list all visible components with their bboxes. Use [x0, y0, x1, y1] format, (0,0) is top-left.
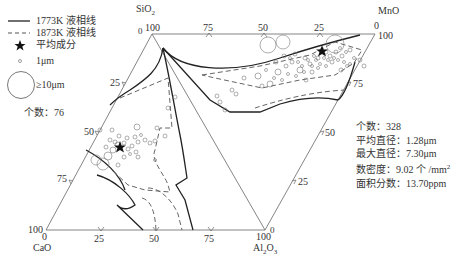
tick-left-100: 100	[28, 224, 43, 236]
stats-panel: 个数：328 平均直径：1.28μm 最大直径：7.30μm 数密度：9.02 …	[356, 120, 450, 190]
tick-bottom-75: 75	[204, 233, 214, 245]
tick-bottom-100: 100	[256, 231, 271, 243]
legend-label-large: ≥10μm	[36, 79, 65, 91]
stat-mean-diameter: 平均直径：1.28μm	[356, 134, 450, 148]
sio2-text: SiO	[136, 3, 152, 14]
tick-bottom-0: 0	[42, 231, 47, 243]
tick-right-50: 50	[325, 127, 335, 139]
o-text: O	[267, 242, 274, 253]
stat-density-text: 数密度：9.02 个 /mm	[356, 164, 447, 175]
stat-density-sup: 2	[447, 163, 451, 171]
tick-left-50: 50	[84, 126, 94, 138]
mno-inclusion-points	[215, 35, 366, 112]
dashed-line-icon	[8, 27, 32, 39]
tick-bottom-right-0: 0	[270, 224, 275, 236]
vertex-label-cao: CaO	[33, 242, 51, 254]
vertex-label-mno: MnO	[378, 5, 399, 17]
star-icon	[8, 39, 32, 51]
small-circle-icon	[8, 55, 32, 67]
al-text: Al	[253, 242, 263, 253]
stat-max-diameter: 最大直径：7.30μm	[356, 147, 450, 161]
legend-label-1773k: 1773K 液相线	[36, 15, 96, 27]
legend-label-small: 1μm	[36, 55, 54, 67]
tick-left-75: 75	[57, 173, 67, 185]
vertex-label-sio2: SiO2	[136, 3, 155, 19]
solid-line-icon	[8, 15, 32, 27]
stat-count: 个数：328	[356, 120, 450, 134]
stat-area-fraction: 面积分数：13.70ppm	[356, 177, 450, 191]
count-left: 个数：76	[24, 107, 64, 119]
tick-right-100: 100	[378, 30, 393, 42]
tick-bottom-25: 25	[94, 233, 104, 245]
tick-top-75: 75	[203, 22, 213, 34]
tick-top-0-left: 0	[138, 25, 143, 37]
tick-left-25: 25	[110, 77, 120, 89]
o-subscript: 3	[274, 248, 278, 256]
tick-top-50: 50	[258, 22, 268, 34]
tick-right-25: 25	[298, 176, 308, 188]
vertex-label-al2o3: Al2O3	[253, 242, 277, 258]
mean-composition-stars	[114, 45, 328, 153]
sio2-subscript: 2	[152, 9, 156, 17]
liquidus-1773k	[86, 35, 360, 230]
legend-label-1873k: 1873K 液相线	[36, 27, 96, 39]
tick-bottom-50: 50	[149, 233, 159, 245]
tick-top-25: 25	[314, 22, 324, 34]
legend-label-mean: 平均成分	[36, 39, 76, 51]
stat-density: 数密度：9.02 个 /mm2	[356, 161, 450, 177]
large-circle-icon	[6, 70, 36, 100]
tick-right-75: 75	[353, 78, 363, 90]
tick-top-100: 100	[145, 22, 160, 34]
cao-inclusion-points	[91, 95, 177, 170]
